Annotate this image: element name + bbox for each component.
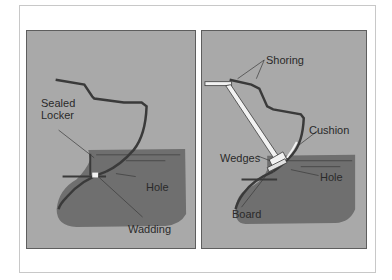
label-wadding: Wadding (128, 223, 171, 235)
label-sealed-locker-line1: Sealed (41, 97, 75, 109)
label-board: Board (232, 208, 261, 220)
sealed-locker-diagram (27, 31, 195, 248)
label-hole: Hole (320, 171, 343, 183)
shoring-strut (226, 85, 281, 162)
label-wedges: Wedges (220, 152, 260, 164)
label-shoring: Shoring (266, 54, 304, 66)
label-hole: Hole (146, 181, 169, 193)
panel-shoring: Shoring Cushion Wedges Hole Board (201, 30, 367, 249)
wadding (92, 173, 98, 178)
panel-sealed-locker: Sealed Locker Hole Wadding (26, 30, 196, 249)
label-sealed-locker-line2: Locker (41, 109, 74, 121)
label-cushion: Cushion (309, 124, 349, 136)
